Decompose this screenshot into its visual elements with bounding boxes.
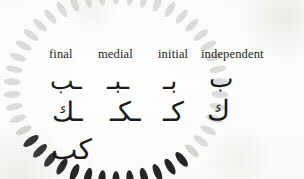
petal	[22, 133, 41, 149]
petal	[97, 0, 106, 6]
petal	[97, 170, 107, 179]
petal	[82, 0, 93, 9]
glyph-kaf-medial: ـكـ	[110, 99, 141, 126]
glyph-kaf-final: ـك	[52, 99, 83, 126]
petal	[82, 167, 94, 179]
petal	[42, 8, 58, 26]
column-header-medial: medial	[98, 47, 133, 61]
glyph-beh-medial: ـبـ	[107, 68, 129, 93]
petal	[138, 167, 150, 179]
column-header-row: final medial initial independent	[0, 47, 304, 65]
petal	[31, 17, 48, 34]
petal	[14, 123, 32, 137]
petal	[3, 90, 21, 98]
petal-ring-ornament	[0, 0, 304, 179]
column-header-initial: initial	[158, 47, 188, 61]
glyph-beh-initial: بـ	[163, 68, 177, 93]
petal	[151, 0, 164, 13]
petal	[138, 0, 149, 9]
column-header-final: final	[49, 47, 73, 61]
petal	[9, 113, 27, 125]
petal	[163, 0, 178, 18]
petal	[112, 171, 119, 179]
glyph-beh-independent: ب	[209, 66, 233, 92]
petal	[5, 102, 23, 112]
petal	[192, 27, 210, 42]
petal	[183, 17, 200, 34]
petal	[113, 0, 120, 5]
petal	[192, 133, 210, 148]
petal	[68, 0, 81, 13]
petal	[174, 8, 190, 26]
petal	[162, 157, 178, 176]
petal	[55, 0, 70, 18]
scanned-page: final medial initial independent ـب ـبـ …	[0, 0, 304, 179]
glyph-kaf-independent: ك	[207, 97, 230, 125]
petal	[151, 163, 165, 179]
glyph-beh-final: ـب	[50, 68, 82, 93]
column-header-independent: independent	[201, 47, 264, 61]
petal	[22, 27, 40, 42]
glyph-kaf-initial: كـ	[163, 99, 184, 126]
petal	[183, 142, 200, 159]
glyph-kaf-beh-ligature: كب	[51, 136, 92, 164]
petal	[5, 64, 23, 74]
petal	[125, 170, 135, 179]
petal	[31, 142, 49, 160]
petal	[173, 150, 190, 169]
petal	[126, 0, 135, 6]
petal	[3, 78, 21, 86]
